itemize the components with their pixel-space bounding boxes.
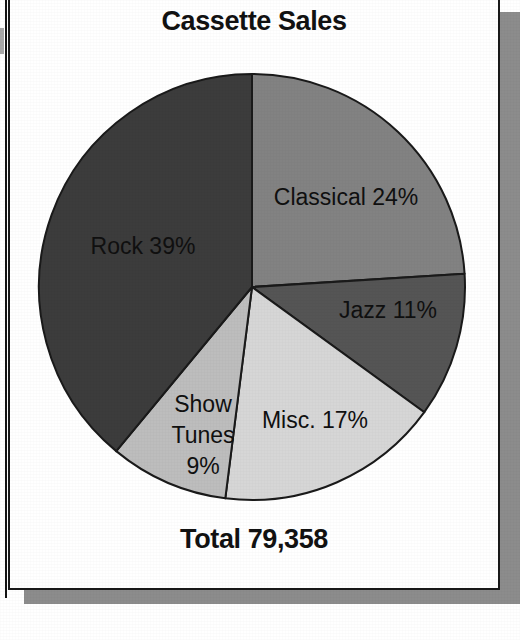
page-spine-edge (0, 0, 7, 598)
chart-title: Cassette Sales (10, 6, 498, 37)
chart-total-label: Total 79,358 (10, 524, 498, 555)
chart-card: Cassette Sales Total 79,358 (8, 0, 500, 590)
chart-page: Cassette Sales Total 79,358 Classical 24… (0, 0, 520, 640)
page-spine-mark (0, 28, 4, 54)
